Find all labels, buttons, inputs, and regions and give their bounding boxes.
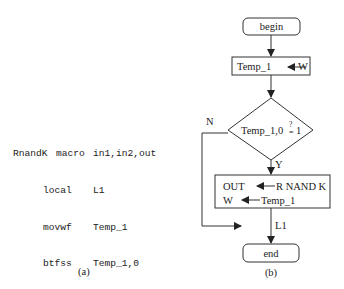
yes-label: Y (275, 159, 283, 170)
assign-right: W (298, 61, 308, 72)
action-line2-left: W (223, 195, 233, 206)
action-line2-right: Temp_1 (261, 195, 295, 206)
decision-equals: = (289, 128, 294, 137)
decision-text: Temp_1,0 (241, 125, 283, 136)
flowchart: begin Temp_1 W Temp_1,0 ? = 1 N Y OUT R … (0, 0, 344, 289)
no-label: N (206, 116, 214, 127)
junction-label: L1 (275, 220, 287, 231)
end-label: end (263, 248, 279, 259)
assign-left: Temp_1 (237, 61, 271, 72)
caption-b: (b) (265, 267, 278, 279)
action-line1-left: OUT (223, 181, 245, 192)
begin-label: begin (260, 21, 284, 32)
decision-value: 1 (296, 125, 301, 136)
action-line1-right: R NAND K (276, 181, 327, 192)
